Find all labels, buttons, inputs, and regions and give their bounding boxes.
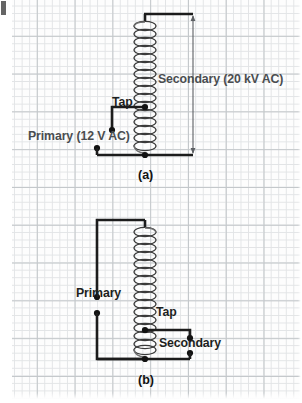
panel-b-coil [134, 227, 156, 354]
panel-a-tap-node [142, 104, 148, 110]
panel-a-coil-bottom-node [142, 152, 148, 158]
panel-a-secondary-label: Secondary (20 kV AC) [158, 72, 283, 86]
panel-a-dimension-arrowhead-top [191, 15, 196, 21]
panel-a-caption: (a) [138, 168, 153, 182]
panel-b-coil-top-curve [145, 228, 156, 233]
panel-b-primary-label: Primary [76, 286, 121, 300]
panel-b-coil-bottom-node [142, 356, 148, 362]
panel-b-caption: (b) [138, 373, 154, 387]
panel-b-primary-lower-wire [97, 313, 145, 359]
panel-a-primary-label: Primary (12 V AC) [28, 129, 130, 143]
panel-a-coil [134, 21, 156, 150]
panel-b-secondary-label: Secondary [159, 336, 221, 350]
panel-a-tap-label: Tap [112, 95, 133, 109]
panel-b-coil-bottom-curve [134, 349, 145, 357]
panel-a-coil-bottom-curve [134, 145, 145, 153]
panel-b-tap-label: Tap [156, 305, 177, 319]
panel-a-dimension-arrowhead-bottom [191, 148, 196, 154]
figure-canvas: Tap Primary (12 V AC) Secondary (20 kV A… [0, 0, 302, 403]
panel-a-coil-top-curve [134, 22, 145, 27]
panel-b-tap-node [142, 327, 148, 333]
circuit-drawing [0, 0, 302, 403]
